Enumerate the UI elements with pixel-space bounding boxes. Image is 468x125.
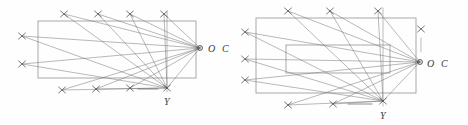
single-rectangle-diagram — [19, 11, 203, 93]
nested-rectangle-diagram — [242, 8, 425, 108]
nested-rectangle-diagram-ray-5-to-o — [245, 62, 420, 80]
nested-rectangle-diagram-ray-2-to-y — [378, 11, 383, 101]
nested-rectangle-diagram-ray-6-to-o — [288, 62, 420, 105]
single-rectangle-diagram-ray-4-to-o — [22, 36, 200, 48]
nested-rectangle-diagram-ray-4-to-o — [245, 59, 420, 62]
diagram-canvas: COYCOY — [0, 0, 468, 125]
single-rectangle-diagram-marker-bottom-3 — [127, 85, 134, 91]
single-rectangle-diagram-ray-5-to-y — [22, 64, 167, 88]
single-rectangle-diagram-outer-rectangle — [38, 21, 196, 78]
single-rectangle-diagram-label-o: O — [208, 44, 215, 54]
single-rectangle-diagram-marker-top-1 — [61, 11, 68, 17]
nested-rectangle-diagram-marker-above-o — [418, 26, 425, 32]
single-rectangle-diagram-ray-7-to-o — [96, 48, 200, 89]
single-rectangle-diagram-ray-0-to-o — [64, 14, 200, 48]
nested-rectangle-diagram-inner-rectangle — [286, 45, 390, 73]
nested-rectangle-diagram-label-y: Y — [380, 111, 386, 121]
nested-rectangle-diagram-label-c: C — [441, 59, 448, 69]
single-rectangle-diagram-marker-top-3 — [127, 11, 134, 17]
single-rectangle-diagram-ray-1-to-y — [98, 14, 167, 88]
single-rectangle-diagram-ray-3-to-o — [164, 14, 200, 48]
single-rectangle-diagram-ray-1-to-o — [98, 14, 200, 48]
single-rectangle-diagram-marker-top-2 — [95, 11, 102, 17]
nested-rectangle-diagram-marker-top-1 — [285, 8, 292, 14]
nested-rectangle-diagram-ray-2-to-o — [378, 11, 420, 62]
nested-rectangle-diagram-ray-0-to-o — [288, 11, 420, 62]
single-rectangle-diagram-ray-9-to-o — [167, 48, 200, 88]
single-rectangle-diagram-ray-8-to-o — [130, 48, 200, 88]
nested-rectangle-diagram-ray-0-to-y — [288, 11, 383, 101]
nested-rectangle-diagram-marker-left-1 — [242, 29, 249, 35]
nested-rectangle-diagram-marker-top-2 — [327, 8, 334, 14]
single-rectangle-diagram-label-y: Y — [164, 97, 170, 107]
single-rectangle-diagram-ray-0-to-y — [64, 14, 167, 88]
nested-rectangle-diagram-label-o: O — [427, 59, 434, 69]
ray-diagram-svg — [0, 0, 468, 125]
single-rectangle-diagram-label-c: C — [222, 44, 229, 54]
